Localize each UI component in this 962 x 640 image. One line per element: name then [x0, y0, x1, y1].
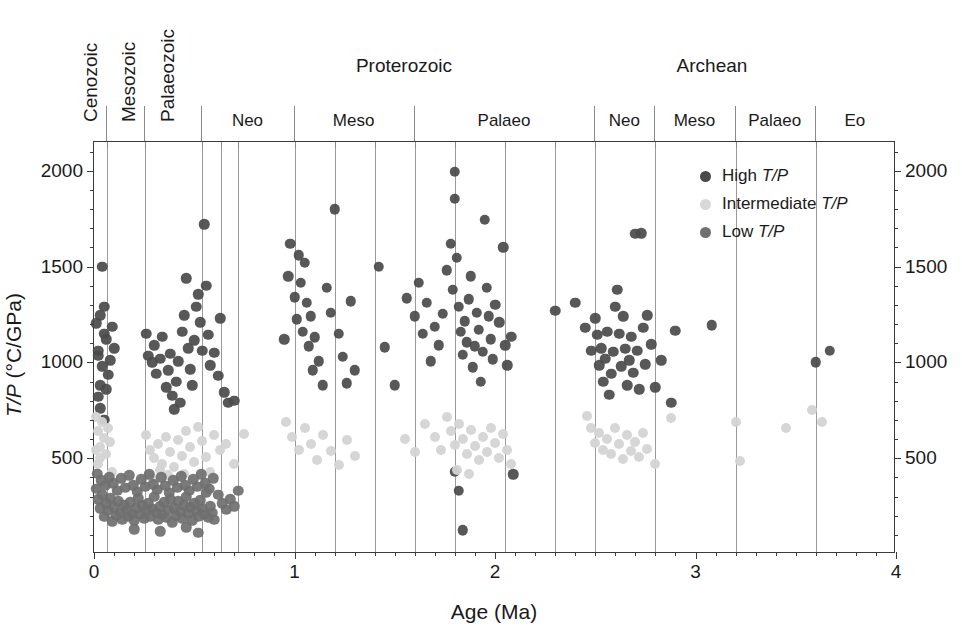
y-axis-minor-tick — [894, 516, 898, 517]
data-point-high — [612, 284, 623, 295]
data-point-high — [209, 348, 220, 359]
eon-label-proterozoic: Proterozoic — [356, 55, 452, 77]
data-point-high — [177, 326, 188, 337]
x-axis-minor-tick — [756, 552, 757, 556]
y-axis-tick-label: 500 — [905, 447, 937, 469]
data-point-inter — [731, 417, 741, 427]
data-point-high — [608, 347, 619, 358]
data-point-inter — [287, 432, 297, 442]
data-point-high — [333, 328, 344, 339]
x-axis-tick-label: 2 — [490, 561, 501, 583]
era-label — [93, 100, 106, 141]
era-separator — [815, 106, 816, 141]
x-axis-minor-tick — [615, 552, 616, 556]
y-axis-minor-tick — [90, 152, 94, 153]
x-axis-minor-tick — [776, 552, 777, 556]
era-separator — [106, 106, 107, 141]
data-point-inter — [610, 423, 620, 433]
data-point-high — [458, 525, 469, 536]
data-point-inter — [436, 445, 446, 455]
data-point-inter — [161, 432, 171, 442]
data-point-high — [450, 166, 461, 177]
y-axis-minor-tick — [90, 228, 94, 229]
y-axis-minor-tick — [894, 190, 898, 191]
data-point-high — [171, 376, 182, 387]
data-point-high — [191, 302, 202, 313]
data-point-high — [494, 317, 505, 328]
data-point-high — [109, 343, 120, 354]
y-axis-minor-tick — [90, 209, 94, 210]
x-axis-tick — [94, 552, 95, 559]
data-point-inter — [201, 452, 211, 462]
y-axis-tick — [87, 362, 94, 363]
data-point-high — [458, 349, 469, 360]
x-axis-tick — [495, 552, 496, 559]
era-separator — [414, 106, 415, 141]
y-axis-minor-tick — [90, 286, 94, 287]
era-label-meso: Meso — [654, 100, 734, 141]
data-point-high — [811, 357, 822, 368]
legend-item-high[interactable]: High T/P — [700, 162, 848, 190]
era-label-neo: Neo — [594, 100, 654, 141]
legend: High T/PIntermediate T/PLow T/P — [700, 162, 848, 246]
top-axis-tick — [202, 142, 203, 148]
data-point-high — [187, 380, 198, 391]
y-axis-tick-label: 2000 — [41, 160, 83, 182]
x-axis-minor-tick — [274, 552, 275, 556]
data-point-inter — [642, 444, 652, 454]
y-axis-tick — [894, 362, 901, 363]
x-axis-minor-tick — [375, 552, 376, 556]
x-axis-minor-tick — [395, 552, 396, 556]
data-point-high — [642, 310, 653, 321]
data-point-high — [488, 354, 499, 365]
y-axis-minor-tick — [90, 439, 94, 440]
top-axis-tick — [335, 142, 336, 148]
x-axis-minor-tick — [635, 552, 636, 556]
y-axis-minor-tick — [894, 247, 898, 248]
data-point-inter — [614, 439, 624, 449]
data-point-high — [434, 340, 445, 351]
data-point-inter — [446, 426, 456, 436]
data-point-high — [219, 387, 230, 398]
data-point-inter — [312, 455, 322, 465]
data-point-high — [325, 307, 336, 318]
data-point-high — [606, 369, 617, 380]
top-axis-tick — [415, 142, 416, 148]
data-point-inter — [666, 413, 676, 423]
data-point-inter — [474, 455, 484, 465]
data-point-high — [141, 328, 152, 339]
data-point-high — [195, 317, 206, 328]
y-axis-tick-label: 1000 — [905, 351, 947, 373]
legend-item-low[interactable]: Low T/P — [700, 218, 848, 246]
data-point-high — [480, 214, 491, 225]
y-axis-minor-tick — [894, 305, 898, 306]
legend-marker-high-icon — [700, 171, 711, 182]
data-point-inter — [630, 437, 640, 447]
data-point-high — [590, 313, 601, 324]
y-axis-title-unit: (°C/GPa) — [2, 293, 25, 384]
x-axis-minor-tick — [876, 552, 877, 556]
data-point-inter — [300, 423, 310, 433]
data-point-high — [283, 271, 294, 282]
data-point-inter — [326, 446, 336, 456]
data-point-high — [179, 310, 190, 321]
data-point-high — [626, 331, 637, 342]
data-point-high — [379, 342, 390, 353]
data-point-high — [155, 353, 166, 364]
data-point-inter — [334, 460, 344, 470]
era-label-meso: Meso — [294, 100, 414, 141]
data-point-high — [430, 322, 441, 333]
data-point-inter — [342, 435, 352, 445]
data-point-high — [337, 351, 348, 362]
legend-item-inter[interactable]: Intermediate T/P — [700, 190, 848, 218]
data-point-high — [484, 311, 495, 322]
top-axis-tick — [555, 142, 556, 148]
data-point-inter — [181, 426, 191, 436]
data-point-high — [634, 384, 645, 395]
data-point-inter — [498, 429, 508, 439]
data-point-high — [99, 302, 110, 313]
y-axis-tick-label: 500 — [51, 447, 83, 469]
data-point-high — [448, 284, 459, 295]
top-axis-tick — [221, 142, 222, 148]
era-separator — [594, 106, 595, 141]
